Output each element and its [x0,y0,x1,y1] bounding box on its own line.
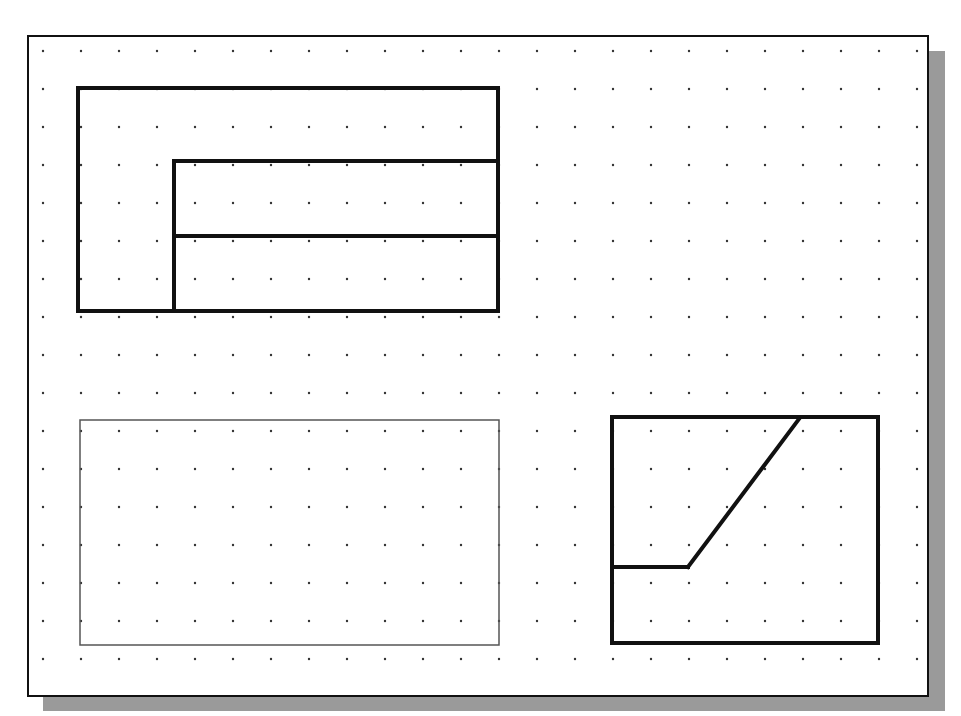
grid-dot [422,430,424,432]
grid-dot [916,354,918,356]
grid-dot [194,658,196,660]
grid-dot [232,354,234,356]
grid-dot [574,620,576,622]
grid-dots [42,50,918,660]
grid-dot [536,392,538,394]
grid-dot [764,506,766,508]
grid-dot [384,620,386,622]
grid-dot [194,126,196,128]
grid-dot [916,164,918,166]
grid-dot [916,544,918,546]
grid-dot [308,164,310,166]
grid-dot [346,126,348,128]
grid-dot [574,126,576,128]
grid-dot [612,278,614,280]
grid-dot [460,240,462,242]
grid-dot [156,126,158,128]
grid-dot [650,278,652,280]
grid-dot [688,202,690,204]
grid-dot [194,240,196,242]
grid-dot [764,164,766,166]
grid-dot [118,50,120,52]
grid-dot [574,468,576,470]
grid-dot [688,126,690,128]
grid-dot [764,202,766,204]
grid-dot [916,658,918,660]
grid-dot [726,544,728,546]
grid-dot [384,202,386,204]
grid-dot [878,316,880,318]
grid-dot [688,392,690,394]
drawing-canvas [0,0,961,716]
grid-dot [916,88,918,90]
grid-dot [650,430,652,432]
grid-dot [384,240,386,242]
grid-dot [802,468,804,470]
grid-dot [764,354,766,356]
grid-dot [536,126,538,128]
grid-dot [802,88,804,90]
grid-dot [726,278,728,280]
grid-dot [802,164,804,166]
grid-dot [802,620,804,622]
grid-dot [574,240,576,242]
grid-dot [80,164,82,166]
grid-dot [270,202,272,204]
grid-dot [80,240,82,242]
grid-dot [536,202,538,204]
grid-dot [688,164,690,166]
grid-dot [536,354,538,356]
grid-dot [460,316,462,318]
grid-dot [308,354,310,356]
grid-dot [460,50,462,52]
grid-dot [726,88,728,90]
grid-dot [612,164,614,166]
grid-dot [574,506,576,508]
grid-dot [688,506,690,508]
grid-dot [384,468,386,470]
grid-dot [802,240,804,242]
grid-dot [574,88,576,90]
grid-dot [460,278,462,280]
grid-dot [308,316,310,318]
grid-dot [536,50,538,52]
grid-dot [422,544,424,546]
grid-dot [878,50,880,52]
grid-dot [270,392,272,394]
grid-dot [308,658,310,660]
grid-dot [878,88,880,90]
grid-dot [764,50,766,52]
grid-dot [536,316,538,318]
grid-dot [498,658,500,660]
grid-dot [574,354,576,356]
grid-dot [916,392,918,394]
grid-dot [916,468,918,470]
grid-dot [460,468,462,470]
grid-dot [42,620,44,622]
grid-dot [916,278,918,280]
grid-dot [346,50,348,52]
grid-dot [346,354,348,356]
grid-dot [650,620,652,622]
grid-dot [156,582,158,584]
grid-dot [612,354,614,356]
grid-dot [232,582,234,584]
grid-dot [612,126,614,128]
grid-dot [612,658,614,660]
grid-dot [840,164,842,166]
grid-dot [498,392,500,394]
grid-dot [422,240,424,242]
grid-dot [118,354,120,356]
grid-dot [42,544,44,546]
grid-dot [688,88,690,90]
grid-dot [650,582,652,584]
grid-dot [726,202,728,204]
grid-dot [384,316,386,318]
grid-dot [460,620,462,622]
grid-dot [802,278,804,280]
grid-dot [80,354,82,356]
grid-dot [270,316,272,318]
grid-dot [118,582,120,584]
grid-dot [764,582,766,584]
grid-dot [574,392,576,394]
